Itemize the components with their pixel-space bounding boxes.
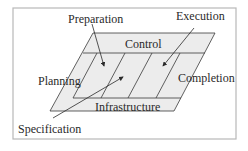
- label-specification: Specification: [18, 123, 81, 135]
- label-planning: Planning: [38, 75, 81, 87]
- label-completion: Completion: [178, 72, 235, 84]
- label-preparation: Preparation: [68, 13, 123, 25]
- label-execution: Execution: [176, 10, 225, 22]
- label-infrastructure: Infrastructure: [95, 101, 160, 113]
- label-control: Control: [125, 38, 162, 50]
